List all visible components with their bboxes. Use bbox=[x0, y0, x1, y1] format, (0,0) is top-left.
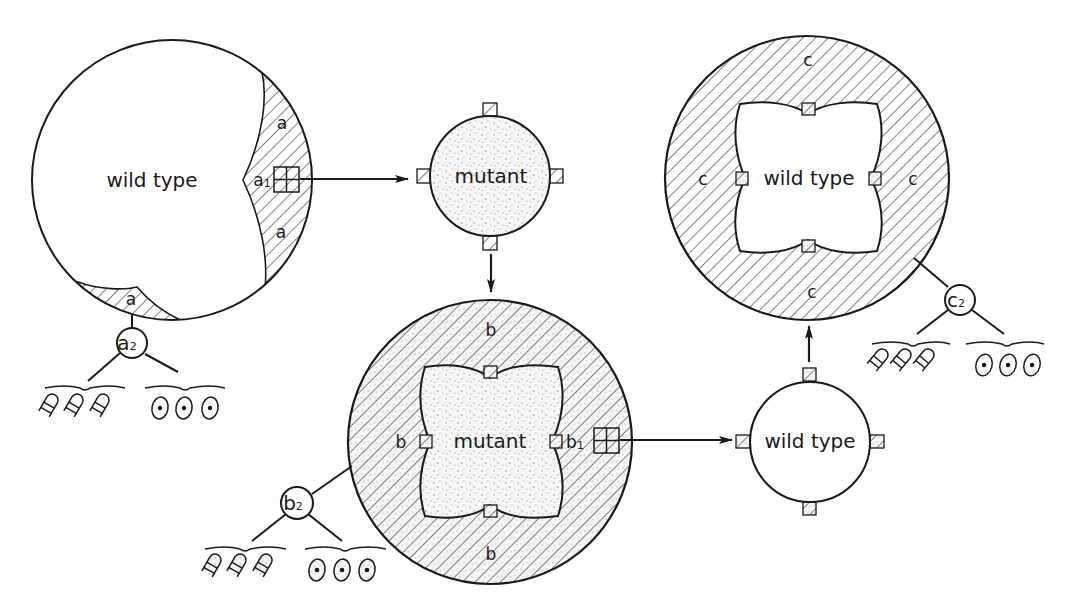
panel-c-region-label: c bbox=[908, 169, 917, 189]
panel-c-region-label: c bbox=[803, 50, 812, 70]
transplant-diagram: wild type a a a a1 a2 bbox=[0, 0, 1080, 611]
panel-c-region-label: c bbox=[807, 282, 816, 302]
round-cells-icon bbox=[145, 386, 225, 420]
small-wild-type-label: wild type bbox=[764, 429, 855, 453]
small-mutant-disc: mutant bbox=[417, 103, 563, 250]
bristle-cells-icon bbox=[202, 547, 286, 577]
panel-c-disc: wild type c c c c bbox=[665, 36, 949, 320]
small-wild-type-disc: wild type bbox=[736, 368, 884, 515]
bristle-cells-icon bbox=[867, 342, 950, 371]
panel-b-region-label: b bbox=[396, 432, 407, 452]
panel-b-main-label: mutant bbox=[454, 429, 527, 453]
small-mutant-label: mutant bbox=[455, 164, 528, 188]
tissue-tree-c2 bbox=[914, 258, 1004, 334]
panel-b-region-label: b bbox=[486, 544, 497, 564]
panel-a-region-label: a bbox=[276, 222, 286, 242]
round-cells-icon bbox=[966, 342, 1044, 378]
panel-b-region-label: b bbox=[486, 320, 497, 340]
panel-a-region-label: a bbox=[126, 289, 136, 309]
panel-c-region-label: c bbox=[698, 169, 707, 189]
panel-b-disc: mutant b b b b1 bbox=[348, 300, 632, 584]
bristle-cells-icon bbox=[39, 386, 125, 417]
panel-a-wild-type-disc: wild type a a a a1 bbox=[32, 40, 330, 325]
panel-a-region-label: a bbox=[277, 113, 287, 133]
round-cells-icon bbox=[305, 547, 386, 582]
panel-a-main-label: wild type bbox=[106, 168, 197, 192]
panel-c-main-label: wild type bbox=[763, 166, 854, 190]
